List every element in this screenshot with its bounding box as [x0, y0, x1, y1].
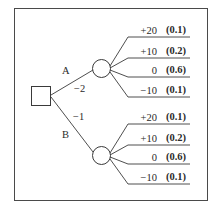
outcome-a-2-probability: (0.2): [166, 45, 187, 57]
outcome-b-3-probability: (0.6): [166, 151, 187, 163]
outcome-a-4-value: −10: [141, 85, 157, 96]
outcome-a-3-value: 0: [152, 65, 157, 76]
chance-node-a-circle: [93, 60, 111, 78]
outcome-b-3-value: 0: [152, 152, 157, 163]
outcome-b-1-value: +20: [141, 112, 157, 123]
branch-a-line: [51, 70, 93, 95]
chance-node-b-circle: [93, 147, 111, 165]
branch-a-label: A: [62, 65, 70, 76]
branch-b-line: [51, 97, 93, 152]
branch-b-label: B: [62, 129, 69, 140]
decision-tree-canvas: A −2 −1 B +20 (0.1) +10 (0.2) 0 (0.6) −1…: [0, 0, 218, 211]
outcome-b-1-probability: (0.1): [166, 111, 187, 123]
outcome-a-2-value: +10: [141, 46, 157, 57]
outcome-b-4-value: −10: [141, 172, 157, 183]
outcome-a-1-value: +20: [141, 25, 157, 36]
outcome-a-1-probability: (0.1): [166, 24, 187, 36]
branch-a-cost: −2: [74, 83, 85, 94]
outcome-a-4-probability: (0.1): [166, 84, 187, 96]
outcome-b-4-probability: (0.1): [166, 171, 187, 183]
outcome-a-3-probability: (0.6): [166, 64, 187, 76]
decision-tree-diagram: A −2 −1 B +20 (0.1) +10 (0.2) 0 (0.6) −1…: [0, 0, 218, 211]
outcome-b-2-probability: (0.2): [166, 132, 187, 144]
outcome-b-2-value: +10: [141, 133, 157, 144]
branch-b-cost: −1: [73, 111, 84, 122]
decision-node-square: [32, 87, 51, 106]
